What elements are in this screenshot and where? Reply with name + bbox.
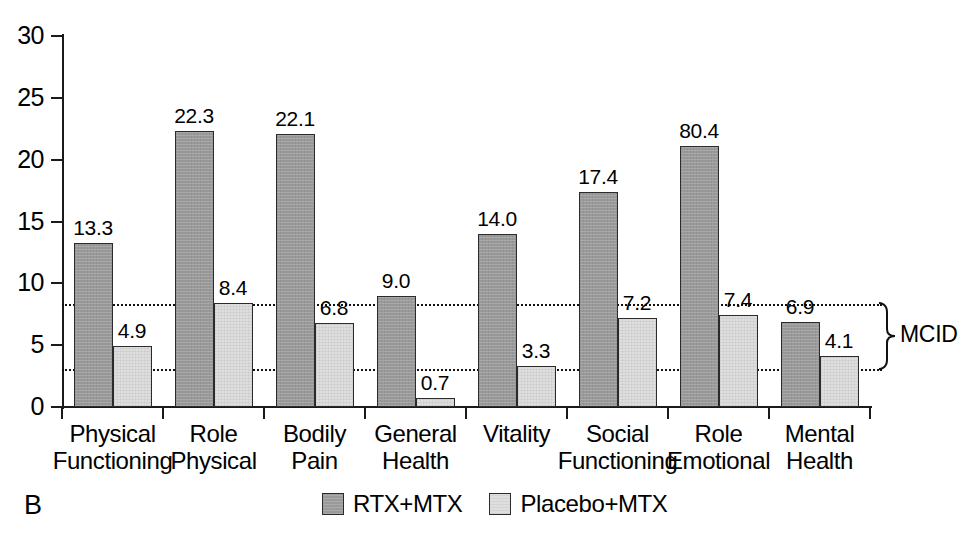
- y-axis-tick: [51, 159, 62, 161]
- category-label-line: Mental: [740, 420, 900, 447]
- y-axis-tick-label: 0: [0, 394, 44, 419]
- bar: [719, 315, 758, 407]
- bar: [517, 366, 556, 407]
- bar-value-label: 7.4: [705, 289, 772, 310]
- mcid-brace-icon: [878, 302, 896, 370]
- x-axis-tick: [667, 408, 669, 419]
- bar: [113, 346, 152, 407]
- bar-value-label: 6.9: [767, 296, 834, 317]
- bar: [214, 303, 253, 407]
- bar-value-label: 22.1: [262, 108, 329, 129]
- y-axis-tick: [51, 35, 62, 37]
- bar: [315, 323, 354, 407]
- y-axis-tick-label: 5: [0, 332, 44, 357]
- bar-value-label: 4.9: [99, 320, 166, 341]
- bar: [175, 131, 214, 407]
- category-label: MentalHealth: [740, 420, 900, 474]
- bar: [276, 134, 315, 407]
- mcid-label: MCID: [900, 323, 958, 346]
- bar: [618, 318, 657, 407]
- legend-item: RTX+MTX: [322, 492, 462, 516]
- y-axis-tick-label: 20: [0, 147, 44, 172]
- x-axis-tick: [162, 408, 164, 419]
- bar-value-label: 22.3: [161, 105, 228, 126]
- y-axis-tick-label: 30: [0, 23, 44, 48]
- category-label-line: Health: [336, 447, 496, 474]
- bar-value-label: 8.4: [200, 277, 267, 298]
- y-axis-tick-label: 10: [0, 270, 44, 295]
- y-axis-tick: [51, 282, 62, 284]
- bar-value-label: 17.4: [565, 166, 632, 187]
- bar-value-label: 80.4: [666, 120, 733, 141]
- x-axis-tick: [364, 408, 366, 419]
- chart-legend: RTX+MTXPlacebo+MTX: [322, 492, 667, 516]
- bar-value-label: 9.0: [363, 270, 430, 291]
- x-axis-tick: [768, 408, 770, 419]
- legend-item: Placebo+MTX: [489, 492, 667, 516]
- panel-label: B: [24, 492, 42, 519]
- y-axis-tick: [51, 97, 62, 99]
- bar: [680, 146, 719, 407]
- bar-value-label: 3.3: [503, 340, 570, 361]
- x-axis-tick: [465, 408, 467, 419]
- bar-value-label: 7.2: [604, 292, 671, 313]
- bar: [416, 398, 455, 407]
- y-axis-tick-label: 25: [0, 85, 44, 110]
- bar: [820, 356, 859, 407]
- legend-label: Placebo+MTX: [520, 492, 667, 516]
- x-axis-tick: [869, 408, 871, 419]
- category-label-line: Health: [740, 447, 900, 474]
- legend-swatch-icon: [322, 493, 344, 515]
- bar-value-label: 6.8: [301, 297, 368, 318]
- bar: [478, 234, 517, 407]
- legend-label: RTX+MTX: [353, 492, 462, 516]
- bar-value-label: 14.0: [464, 208, 531, 229]
- x-axis-tick: [61, 408, 63, 419]
- y-axis-tick: [51, 344, 62, 346]
- bar-value-label: 4.1: [806, 330, 873, 351]
- x-axis-tick: [566, 408, 568, 419]
- x-axis-tick: [263, 408, 265, 419]
- bar-value-label: 13.3: [60, 217, 127, 238]
- y-axis-tick-label: 15: [0, 209, 44, 234]
- legend-swatch-icon: [489, 493, 511, 515]
- bar-value-label: 0.7: [402, 372, 469, 393]
